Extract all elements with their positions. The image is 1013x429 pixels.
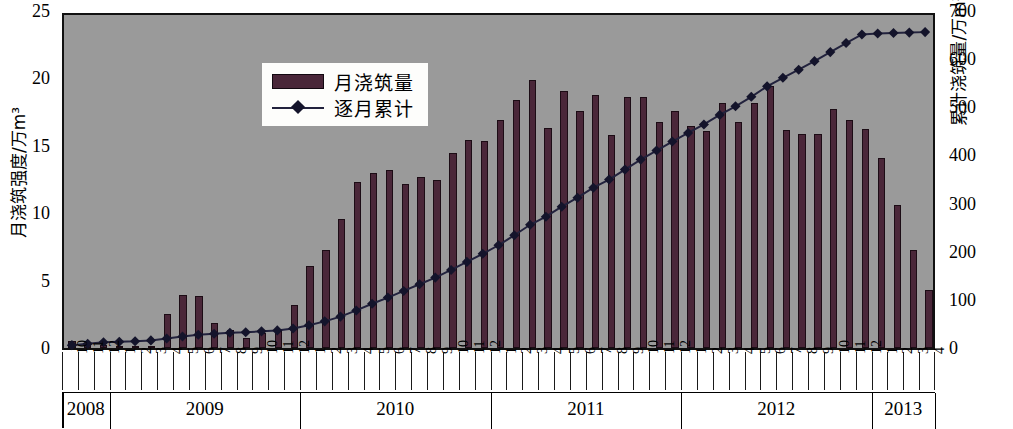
diamond-marker-icon [588, 183, 598, 193]
y-axis-left-title: 月浇筑强度/万m³ [5, 68, 30, 278]
y-axis-right-tick-label: 200 [949, 242, 995, 263]
x-axis-month-tick [586, 352, 587, 390]
diamond-marker-icon [130, 336, 140, 346]
diamond-marker-icon [478, 249, 488, 259]
x-axis-month-tick [887, 352, 888, 390]
chart-container: 月浇筑强度/万m³ 累计浇筑量/万m³ 0510152025 010020030… [0, 0, 1013, 429]
diamond-marker-icon [604, 175, 614, 185]
y-axis-right-tick-label: 500 [949, 97, 995, 118]
x-axis-month-tick [665, 352, 666, 390]
x-axis-month-tick [332, 352, 333, 390]
y-axis-right-tick-label: 400 [949, 145, 995, 166]
x-axis-month-tick [189, 352, 190, 390]
x-axis-month-tick [618, 352, 619, 390]
x-axis-month-tick [903, 352, 904, 390]
diamond-marker-icon [193, 330, 203, 340]
diamond-marker-icon [794, 65, 804, 75]
x-axis-month-tick [538, 352, 539, 390]
x-axis-month-tick [522, 352, 523, 390]
diamond-marker-icon [320, 316, 330, 326]
x-axis-month-tick [633, 352, 634, 390]
x-axis-month-tick [681, 352, 682, 390]
x-axis-month-tick [221, 352, 222, 390]
x-axis-month-tick [94, 352, 95, 390]
diamond-marker-icon [272, 325, 282, 335]
diamond-marker-icon [730, 101, 740, 111]
diamond-marker-icon [541, 212, 551, 222]
diamond-marker-icon [857, 29, 867, 39]
x-axis-month-tick [459, 352, 460, 390]
x-axis-month-tick [554, 352, 555, 390]
diamond-marker-icon [241, 327, 251, 337]
x-axis-year-label: 2013 [872, 398, 935, 420]
diamond-marker-icon [715, 110, 725, 120]
x-axis-month-tick [173, 352, 174, 390]
cumulative-line-series [64, 15, 933, 348]
x-axis-month-tick [427, 352, 428, 390]
legend-bar-label: 月浇筑量 [334, 68, 414, 95]
x-axis-month-labels: 1011121234567891011121234567891011121234… [62, 352, 935, 392]
x-axis-month-tick [872, 352, 873, 390]
y-axis-right-tick-label: 600 [949, 49, 995, 70]
x-axis-month-tick [125, 352, 126, 390]
x-axis-month-tick [110, 352, 111, 390]
x-axis-month-tick [205, 352, 206, 390]
legend-bar-swatch [272, 74, 324, 89]
y-axis-left-tick-label: 10 [8, 203, 50, 224]
x-axis-month-tick [411, 352, 412, 390]
x-axis-month-tick [379, 352, 380, 390]
x-axis-month-tick [475, 352, 476, 390]
diamond-marker-icon [920, 27, 930, 37]
x-axis-month-tick [395, 352, 396, 390]
x-axis-month-tick [252, 352, 253, 390]
x-axis-month-tick [78, 352, 79, 390]
x-axis-year-label: 2012 [681, 398, 871, 420]
y-axis-left-tick-label: 20 [8, 68, 50, 89]
diamond-marker-icon [651, 146, 661, 156]
y-axis-right-tick-label: 100 [949, 290, 995, 311]
x-axis-year-label: 2011 [491, 398, 681, 420]
legend: 月浇筑量 逐月累计 [262, 63, 428, 126]
x-axis-month-tick [62, 352, 63, 390]
diamond-marker-icon [841, 38, 851, 48]
diamond-marker-icon [620, 165, 630, 175]
x-axis-month-tick [856, 352, 857, 390]
x-axis-month-tick [824, 352, 825, 390]
diamond-marker-icon [414, 279, 424, 289]
diamond-marker-icon [177, 332, 187, 342]
legend-item-bar: 月浇筑量 [272, 68, 414, 94]
y-axis-left-tick-label: 25 [8, 1, 50, 22]
x-axis-year-cell: 2008 [62, 393, 111, 429]
diamond-marker-icon [430, 273, 440, 283]
y-axis-right-tick-label: 700 [949, 1, 995, 22]
diamond-marker-icon [888, 28, 898, 38]
x-axis-month-tick [808, 352, 809, 390]
x-axis-month-tick [713, 352, 714, 390]
diamond-marker-icon [683, 128, 693, 138]
diamond-marker-icon [256, 326, 266, 336]
diamond-marker-icon [493, 240, 503, 250]
x-axis-month-tick [570, 352, 571, 390]
diamond-marker-icon [291, 100, 305, 114]
diamond-marker-icon [399, 286, 409, 296]
cumulative-line [72, 32, 925, 345]
x-axis-month-tick [697, 352, 698, 390]
diamond-marker-icon [904, 28, 914, 38]
x-axis-month-tick [760, 352, 761, 390]
y-axis-right-tick-label: 300 [949, 194, 995, 215]
diamond-marker-icon [335, 312, 345, 322]
diamond-marker-icon [162, 333, 172, 343]
diamond-marker-icon [462, 257, 472, 267]
x-axis-year-cell: 2009 [110, 393, 301, 429]
diamond-marker-icon [873, 29, 883, 39]
diamond-marker-icon [667, 137, 677, 147]
x-axis-year-label: 2010 [300, 398, 490, 420]
x-axis-month-tick [237, 352, 238, 390]
x-axis-month-tick [745, 352, 746, 390]
x-axis-month-tick [792, 352, 793, 390]
x-axis-month-tick [491, 352, 492, 390]
x-axis-year-labels: 200820092010201120122013 [62, 392, 935, 429]
diamond-marker-icon [809, 56, 819, 66]
legend-item-line: 逐月累计 [272, 94, 414, 120]
x-axis-month-tick [284, 352, 285, 390]
